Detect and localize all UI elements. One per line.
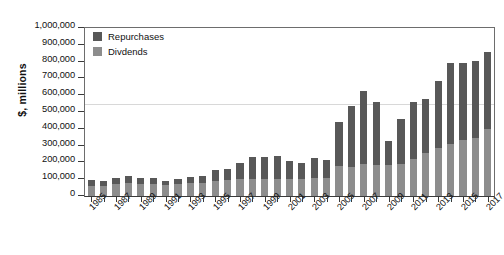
bar-2005 bbox=[335, 122, 342, 196]
y-axis-tick-label: 300,000 bbox=[42, 138, 75, 148]
bar-segment-divdends bbox=[212, 181, 219, 196]
y-axis-tick-label: 200,000 bbox=[42, 154, 75, 164]
legend-swatch-repurchases bbox=[93, 32, 102, 41]
bar-1993 bbox=[187, 177, 194, 196]
bar-segment-divdends bbox=[459, 140, 466, 196]
y-axis-tick-label: 400,000 bbox=[42, 121, 75, 131]
bar-2014 bbox=[447, 63, 454, 196]
bar-segment-repurchases bbox=[224, 169, 231, 180]
bar-segment-divdends bbox=[88, 186, 95, 196]
bar-2015 bbox=[459, 63, 466, 196]
x-axis-tick bbox=[228, 197, 229, 202]
bar-segment-repurchases bbox=[274, 156, 281, 180]
bar-segment-repurchases bbox=[323, 160, 330, 178]
bar-segment-repurchases bbox=[410, 102, 417, 159]
bar-segment-divdends bbox=[447, 144, 454, 196]
x-axis-tick bbox=[252, 197, 253, 202]
bar-segment-repurchases bbox=[447, 63, 454, 144]
chart-container: $, millions 1,000,000900,000800,000700,0… bbox=[0, 0, 504, 255]
bar-1999 bbox=[261, 157, 268, 196]
bar-segment-repurchases bbox=[397, 119, 404, 164]
y-axis-tick-label: 0 bbox=[70, 188, 75, 198]
bar-2003 bbox=[311, 158, 318, 196]
x-axis-tick bbox=[351, 197, 352, 202]
bar-segment-divdends bbox=[311, 178, 318, 196]
x-axis-tick bbox=[327, 197, 328, 202]
bar-2016 bbox=[472, 61, 479, 196]
bar-2008 bbox=[373, 102, 380, 196]
bar-1995 bbox=[212, 170, 219, 196]
bar-segment-divdends bbox=[261, 179, 268, 196]
bar-segment-divdends bbox=[187, 183, 194, 196]
bar-2011 bbox=[410, 102, 417, 196]
bar-segment-divdends bbox=[335, 166, 342, 196]
bar-segment-repurchases bbox=[435, 81, 442, 147]
bar-segment-divdends bbox=[422, 153, 429, 196]
bar-segment-divdends bbox=[435, 148, 442, 196]
x-axis-tick bbox=[277, 197, 278, 202]
bar-2006 bbox=[348, 106, 355, 196]
bar-segment-repurchases bbox=[373, 102, 380, 165]
bar-segment-repurchases bbox=[472, 61, 479, 137]
y-axis-tick-label: 100,000 bbox=[42, 171, 75, 181]
bar-segment-repurchases bbox=[484, 52, 491, 129]
y-axis-tick-label: 800,000 bbox=[42, 54, 75, 64]
x-axis-tick bbox=[451, 197, 452, 202]
bar-2012 bbox=[422, 99, 429, 196]
bar-2007 bbox=[360, 91, 367, 196]
bar-1985 bbox=[88, 180, 95, 196]
y-axis-tick-label: 500,000 bbox=[42, 104, 75, 114]
bar-segment-repurchases bbox=[422, 99, 429, 153]
legend-label-repurchases: Repurchases bbox=[108, 31, 164, 42]
x-axis-tick bbox=[128, 197, 129, 202]
bar-2009 bbox=[385, 141, 392, 196]
legend-item-repurchases: Repurchases bbox=[93, 31, 164, 42]
bar-segment-repurchases bbox=[125, 176, 132, 183]
bar-segment-repurchases bbox=[249, 157, 256, 179]
chart-legend: Repurchases Divdends bbox=[93, 31, 164, 61]
y-axis-title: $, millions bbox=[16, 20, 28, 160]
bar-segment-divdends bbox=[410, 159, 417, 196]
bar-2001 bbox=[286, 161, 293, 196]
bar-segment-repurchases bbox=[236, 163, 243, 179]
y-axis-tick-label: 600,000 bbox=[42, 87, 75, 97]
y-axis-tick-label: 700,000 bbox=[42, 70, 75, 80]
bar-segment-repurchases bbox=[212, 170, 219, 181]
bar-segment-repurchases bbox=[335, 122, 342, 166]
bar-segment-divdends bbox=[360, 164, 367, 196]
bar-2013 bbox=[435, 81, 442, 196]
x-axis-tick bbox=[104, 197, 105, 202]
x-axis-tick bbox=[203, 197, 204, 202]
bar-1991 bbox=[162, 181, 169, 196]
legend-label-divdends: Divdends bbox=[108, 46, 148, 57]
bar-segment-repurchases bbox=[360, 91, 367, 165]
bar-1997 bbox=[236, 163, 243, 196]
bar-segment-divdends bbox=[472, 138, 479, 196]
bar-segment-divdends bbox=[236, 179, 243, 196]
legend-item-divdends: Divdends bbox=[93, 46, 164, 57]
bar-segment-repurchases bbox=[459, 63, 466, 140]
x-axis-tick bbox=[376, 197, 377, 202]
x-axis-tick bbox=[426, 197, 427, 202]
bar-2010 bbox=[397, 119, 404, 196]
bar-segment-divdends bbox=[385, 165, 392, 196]
x-axis-tick bbox=[475, 197, 476, 202]
bar-1989 bbox=[137, 178, 144, 196]
bar-segment-repurchases bbox=[298, 163, 305, 179]
x-axis-tick bbox=[401, 197, 402, 202]
bar-segment-divdends bbox=[286, 179, 293, 196]
bar-segment-repurchases bbox=[311, 158, 318, 178]
y-axis-tick-label: 1,000,000 bbox=[35, 20, 75, 30]
bar-segment-repurchases bbox=[385, 141, 392, 165]
bar-segment-divdends bbox=[162, 185, 169, 196]
bar-1987 bbox=[112, 178, 119, 196]
bar-segment-divdends bbox=[137, 184, 144, 196]
bar-segment-divdends bbox=[112, 184, 119, 196]
legend-swatch-divdends bbox=[93, 47, 102, 56]
x-axis-tick bbox=[302, 197, 303, 202]
bar-segment-repurchases bbox=[261, 157, 268, 180]
x-axis-tick bbox=[153, 197, 154, 202]
bar-segment-repurchases bbox=[348, 106, 355, 167]
bar-2017 bbox=[484, 52, 491, 196]
y-axis-tick-label: 900,000 bbox=[42, 37, 75, 47]
